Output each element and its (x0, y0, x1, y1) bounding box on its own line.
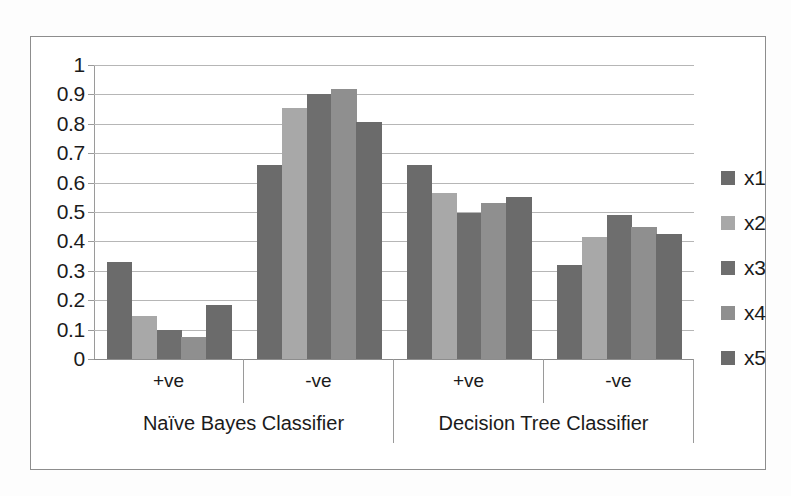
bar (356, 122, 381, 359)
bar (206, 305, 231, 359)
bar (607, 215, 632, 359)
bar (157, 330, 182, 359)
y-axis-tick (88, 300, 94, 301)
bar (181, 337, 206, 359)
legend-label: x2 (744, 211, 766, 235)
y-axis-tick (88, 153, 94, 154)
bar (132, 316, 157, 359)
bar (407, 165, 432, 359)
group-label-1: Decision Tree Classifier (394, 403, 694, 443)
category-group-row: Naïve Bayes ClassifierDecision Tree Clas… (94, 403, 694, 443)
bar (557, 265, 582, 359)
legend-swatch-icon (721, 261, 735, 275)
y-axis-tick-label: 0.4 (57, 229, 85, 253)
y-axis-tick-label: 0.2 (57, 288, 85, 312)
y-axis-tick (88, 65, 94, 66)
y-axis-tick-label: 0.9 (57, 82, 85, 106)
bar (506, 197, 531, 359)
gridline (94, 124, 694, 125)
chart-legend: x1x2x3x4x5 (721, 155, 791, 380)
bar (481, 203, 506, 359)
bar (631, 227, 656, 359)
y-axis-tick-label: 0.1 (57, 318, 85, 342)
legend-label: x1 (744, 166, 766, 190)
y-axis-tick (88, 271, 94, 272)
legend-swatch-icon (721, 306, 735, 320)
y-axis-tick (88, 330, 94, 331)
bar (582, 237, 607, 359)
bar (457, 213, 482, 359)
y-axis-tick-label: 0 (74, 347, 85, 371)
y-axis-tick (88, 241, 94, 242)
y-axis-tick-label: 0.5 (57, 200, 85, 224)
gridline (94, 153, 694, 154)
bar (307, 94, 332, 359)
plot-area: 10.90.80.70.60.50.40.30.20.10 (94, 65, 694, 359)
category-label-3: -ve (544, 359, 694, 403)
category-axis: +ve-ve+ve-ve Naïve Bayes ClassifierDecis… (94, 359, 694, 443)
bar (107, 262, 132, 359)
gridline (94, 183, 694, 184)
bar (282, 108, 307, 359)
legend-item-x3[interactable]: x3 (721, 245, 791, 290)
bar (656, 234, 681, 359)
y-axis-tick-label: 1 (74, 53, 85, 77)
legend-label: x4 (744, 301, 766, 325)
category-label-1: -ve (244, 359, 394, 403)
y-axis-tick (88, 94, 94, 95)
legend-label: x3 (744, 256, 766, 280)
category-subcategory-row: +ve-ve+ve-ve (94, 359, 694, 403)
gridline (94, 94, 694, 95)
y-axis-tick-label: 0.8 (57, 112, 85, 136)
legend-item-x5[interactable]: x5 (721, 335, 791, 380)
legend-item-x4[interactable]: x4 (721, 290, 791, 335)
category-label-2: +ve (394, 359, 544, 403)
bar (331, 89, 356, 359)
legend-swatch-icon (721, 216, 735, 230)
legend-item-x1[interactable]: x1 (721, 155, 791, 200)
y-axis-tick-label: 0.3 (57, 259, 85, 283)
gridline (94, 212, 694, 213)
y-axis-tick (88, 183, 94, 184)
y-axis-tick (88, 212, 94, 213)
chart-frame: 10.90.80.70.60.50.40.30.20.10 +ve-ve+ve-… (30, 36, 766, 470)
bar (257, 165, 282, 359)
gridline (94, 65, 694, 66)
group-label-0: Naïve Bayes Classifier (94, 403, 394, 443)
legend-item-x2[interactable]: x2 (721, 200, 791, 245)
y-axis-tick-label: 0.6 (57, 171, 85, 195)
legend-swatch-icon (721, 171, 735, 185)
category-label-0: +ve (94, 359, 244, 403)
legend-swatch-icon (721, 351, 735, 365)
y-axis-tick-label: 0.7 (57, 141, 85, 165)
y-axis-tick (88, 124, 94, 125)
bar (432, 193, 457, 359)
legend-label: x5 (744, 346, 766, 370)
